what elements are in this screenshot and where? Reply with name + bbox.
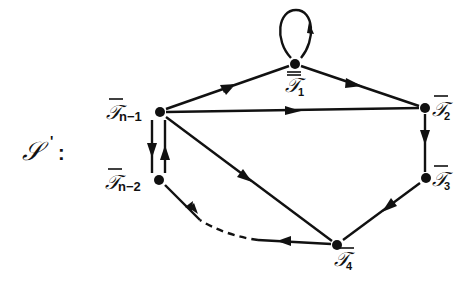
svg-text:n−1: n−1 xyxy=(119,109,142,124)
node-T3 xyxy=(421,173,431,183)
node-T1 xyxy=(290,59,300,69)
arrowhead-icon xyxy=(285,106,301,115)
arrowhead-icon xyxy=(420,130,430,145)
graph-title-script: 𝒮 xyxy=(22,136,49,166)
graph-title: 𝒮 ' : xyxy=(22,133,65,166)
edge-T4-to-Tn-2-dashed xyxy=(200,220,258,240)
edge-T4-to-Tn-2-end xyxy=(165,185,200,220)
arrowhead-icon xyxy=(147,143,157,158)
label-T4: 𝒯 4 xyxy=(334,247,356,272)
svg-text:𝒯: 𝒯 xyxy=(432,167,454,191)
svg-text:3: 3 xyxy=(444,180,450,192)
node-T2 xyxy=(420,103,430,113)
node-Tn-1 xyxy=(155,107,165,117)
graph-title-colon: : xyxy=(58,142,65,164)
edge-T1-self-loop xyxy=(280,10,311,58)
svg-text:𝒯: 𝒯 xyxy=(432,97,454,121)
label-T1: 𝒯 1 xyxy=(285,72,307,98)
edge-T3-to-T4 xyxy=(343,183,420,240)
arrowhead-icon xyxy=(160,145,170,160)
label-T3: 𝒯 3 xyxy=(432,166,454,192)
arrowhead-icon xyxy=(277,236,291,246)
directed-graph: 𝒮 ' : xyxy=(0,0,473,288)
arrowhead-icon xyxy=(382,198,397,212)
svg-text:1: 1 xyxy=(298,86,304,98)
label-Tn-2: 𝒯 n−2 xyxy=(105,169,141,194)
label-T2: 𝒯 2 xyxy=(432,96,454,122)
svg-text:𝒯: 𝒯 xyxy=(334,247,356,271)
graph-title-prime: ' xyxy=(50,133,53,149)
node-Tn-2 xyxy=(154,175,164,185)
label-Tn-1: 𝒯 n−1 xyxy=(106,99,142,124)
svg-text:4: 4 xyxy=(346,260,353,272)
edge-T4-to-Tn-2-solid xyxy=(258,240,331,244)
edges xyxy=(147,10,430,246)
svg-text:2: 2 xyxy=(444,110,450,122)
svg-text:n−2: n−2 xyxy=(118,179,141,194)
